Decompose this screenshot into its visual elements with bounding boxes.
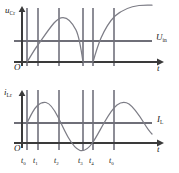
upper-reference-level-label: Uin — [156, 33, 167, 42]
tick-label-t0b: t0 — [109, 157, 114, 165]
upper-value-axis-arrow — [19, 6, 26, 12]
upper-y-axis-symbol: u — [5, 5, 10, 15]
lower-reference-level-label: IL — [157, 115, 163, 124]
curve-ucr — [27, 5, 152, 62]
waveform-figure: uCr O Uin t iLr O IL t t0 t1 t2 t3 t4 — [0, 0, 179, 173]
lower-origin-label: O — [14, 144, 21, 153]
tick-label-t0a: t0 — [21, 157, 26, 165]
tick-label-t2: t2 — [54, 157, 59, 165]
upper-y-axis-subscript: Cr — [10, 10, 16, 16]
uin-subscript: in — [163, 37, 167, 43]
lower-panel — [14, 90, 164, 151]
upper-y-axis-label: uCr — [5, 6, 15, 15]
upper-time-axis-label: t — [157, 64, 160, 73]
lower-y-axis-label: iLr — [4, 88, 12, 97]
tick-label-t1: t1 — [33, 157, 38, 165]
tick-label-t3: t3 — [78, 157, 83, 165]
lower-y-axis-subscript: Lr — [7, 92, 12, 98]
il-subscript: L — [160, 119, 163, 125]
tick-label-t4: t4 — [89, 157, 94, 165]
upper-origin-label: O — [14, 63, 21, 72]
waveform-svg — [0, 0, 179, 173]
lower-time-axis-label: t — [157, 145, 160, 154]
uin-symbol: U — [156, 32, 163, 42]
lower-value-axis-arrow — [19, 90, 26, 96]
upper-panel — [14, 5, 164, 66]
